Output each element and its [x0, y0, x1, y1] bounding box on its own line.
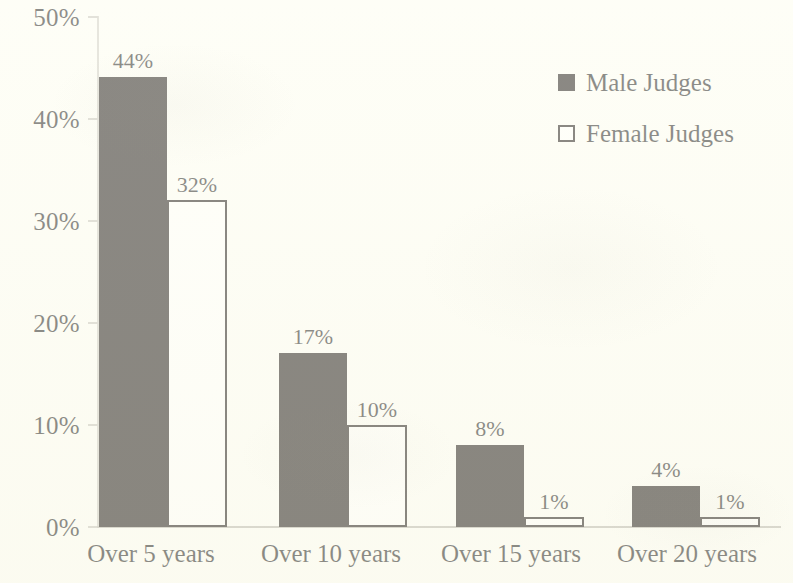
y-tick-mark-40 [88, 118, 98, 120]
legend-label-female-judges: Female Judges [586, 121, 734, 146]
bar-group-2: 17%10% [279, 16, 407, 527]
bar-value-label-female-1: 32% [177, 174, 217, 196]
bar-male-1[interactable]: 44% [99, 77, 167, 527]
bar-female-2[interactable]: 10% [347, 425, 407, 527]
bar-group-1: 44%32% [99, 16, 227, 527]
y-axis-label-30: 30% [0, 209, 80, 234]
bar-chart-figure: 50% 40% 30% 20% 10% 0% 44%32%17%10%8%1%4… [0, 0, 793, 583]
y-axis-label-20: 20% [0, 311, 80, 336]
bar-value-label-male-4: 4% [651, 459, 680, 481]
x-axis-category-4: Over 20 years [572, 541, 793, 566]
bar-male-2[interactable]: 17% [279, 353, 347, 527]
chart-legend: Male Judges Female Judges [558, 70, 734, 172]
legend-swatch-male-judges-icon [558, 74, 575, 91]
bar-value-label-male-3: 8% [475, 418, 504, 440]
legend-item-female-judges: Female Judges [558, 121, 734, 146]
bar-value-label-female-4: 1% [715, 491, 744, 513]
y-axis-label-0: 0% [0, 515, 80, 540]
y-axis-label-50: 50% [0, 5, 80, 30]
y-axis-label-10: 10% [0, 413, 80, 438]
y-tick-mark-50 [88, 16, 98, 18]
bar-male-4[interactable]: 4% [632, 486, 700, 527]
bar-female-4[interactable]: 1% [700, 517, 760, 527]
bar-value-label-female-2: 10% [357, 399, 397, 421]
bar-value-label-female-3: 1% [539, 491, 568, 513]
bar-female-1[interactable]: 32% [167, 200, 227, 527]
y-axis-label-40: 40% [0, 107, 80, 132]
bar-value-label-male-2: 17% [293, 326, 333, 348]
bar-female-3[interactable]: 1% [524, 517, 584, 527]
legend-item-male-judges: Male Judges [558, 70, 734, 95]
y-tick-mark-10 [88, 424, 98, 426]
y-tick-mark-30 [88, 220, 98, 222]
legend-swatch-female-judges-icon [558, 125, 575, 142]
bar-male-3[interactable]: 8% [456, 445, 524, 527]
bar-value-label-male-1: 44% [113, 50, 153, 72]
y-tick-mark-20 [88, 322, 98, 324]
legend-label-male-judges: Male Judges [586, 70, 712, 95]
